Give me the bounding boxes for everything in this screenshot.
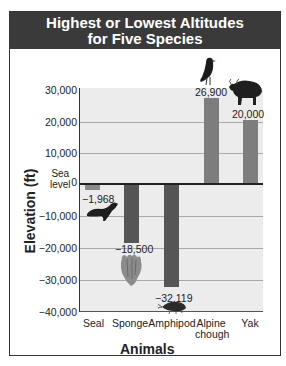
bar-sponge	[124, 184, 139, 243]
sponge-icon	[118, 253, 144, 287]
x-axis-label: Animals	[120, 341, 174, 357]
value-label-alpine-chough: 26,900	[195, 86, 227, 98]
amphipod-icon	[158, 298, 188, 314]
sea-level-label: Sea level	[50, 168, 71, 190]
ytick-10000: 10,000	[45, 147, 77, 159]
ytick-0: 0	[71, 176, 77, 188]
bar-alpine-chough	[204, 98, 219, 184]
category-alpine-line2: chough	[195, 329, 227, 340]
gridline-10000	[80, 153, 263, 154]
bar-seal	[85, 184, 100, 190]
ytick-20000: 20,000	[45, 116, 77, 128]
ytick-neg20000: −20,000	[39, 242, 77, 254]
category-alpine-chough: Alpine chough	[195, 318, 227, 340]
sea-label-line1: Sea	[50, 168, 71, 179]
gridline-20000	[80, 122, 263, 123]
ytick-30000: 30,000	[45, 84, 77, 96]
chart-title: Highest or Lowest Altitudes for Five Spe…	[10, 12, 280, 49]
category-yak: Yak	[239, 318, 261, 329]
seal-icon	[85, 200, 119, 222]
ytick-neg30000: −30,000	[39, 274, 77, 286]
title-line-1: Highest or Lowest Altitudes	[10, 15, 280, 31]
title-line-2: for Five Species	[10, 31, 280, 47]
yak-icon	[228, 78, 264, 106]
bar-yak	[243, 120, 258, 184]
category-seal: Seal	[83, 318, 103, 329]
ytick-neg10000: −10,000	[39, 210, 77, 222]
alpine-chough-bird-icon	[196, 56, 218, 86]
value-label-yak: 20,000	[232, 108, 264, 120]
sea-level-line	[80, 183, 263, 185]
category-amphipod: Amphipod	[147, 318, 197, 329]
sea-label-line2: level	[50, 179, 71, 190]
bar-amphipod	[164, 184, 179, 287]
ytick-neg40000: −40,000	[39, 306, 77, 318]
y-axis-label: Elevation (ft)	[22, 151, 38, 271]
